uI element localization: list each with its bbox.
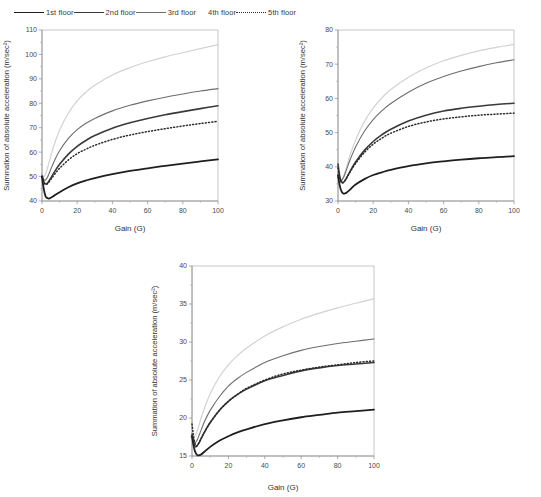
y-tick-label: 60 <box>325 95 333 102</box>
legend-swatch-3rd-floor <box>136 12 166 13</box>
y-tick-label: 35 <box>179 300 187 307</box>
legend-label-4th-floor: 4th floor <box>208 8 236 17</box>
legend-item-5th-floor: 5th floor <box>236 8 296 17</box>
x-tick-label: 60 <box>144 207 152 214</box>
y-tick-label: 50 <box>325 129 333 136</box>
y-tick-label: 60 <box>29 149 37 156</box>
y-tick-label: 100 <box>25 51 37 58</box>
x-tick-label: 40 <box>261 462 269 469</box>
x-tick-label: 100 <box>508 207 520 214</box>
y-axis-title: Summation of absolute acceleration (m/se… <box>150 285 159 436</box>
y-tick-label: 15 <box>179 452 187 459</box>
chart-panel-3: 152025303540020406080100Gain (G)Summatio… <box>148 252 398 492</box>
plot-frame <box>42 30 218 201</box>
x-tick-label: 40 <box>405 207 413 214</box>
x-tick-label: 0 <box>336 207 340 214</box>
series-line-2nd-floor <box>192 363 374 447</box>
x-tick-label: 100 <box>368 462 380 469</box>
x-tick-label: 80 <box>475 207 483 214</box>
chart-svg: 152025303540020406080100Gain (G)Summatio… <box>148 252 398 492</box>
legend-swatch-5th-floor <box>236 12 266 13</box>
legend-item-4th-floor: 4th floor <box>208 8 236 17</box>
series-line-5th-floor <box>192 361 374 446</box>
series-line-5th-floor <box>338 113 514 183</box>
y-tick-label: 20 <box>179 414 187 421</box>
legend-label-3rd-floor: 3rd floor <box>168 8 196 17</box>
legend-swatch-1st-floor <box>14 12 44 13</box>
legend-swatch-2nd-floor <box>74 12 104 13</box>
series-line-4th-floor <box>192 299 374 437</box>
chart-panel-2: 304050607080020406080100Gain (G)Summatio… <box>296 18 536 233</box>
series-line-1st-floor <box>192 410 374 456</box>
x-tick-label: 20 <box>73 207 81 214</box>
y-axis-title: Summation of absolute acceleration (m/se… <box>298 40 307 191</box>
x-tick-label: 60 <box>297 462 305 469</box>
x-tick-label: 20 <box>369 207 377 214</box>
y-tick-label: 80 <box>325 26 333 33</box>
plot-frame <box>192 266 374 456</box>
y-tick-label: 70 <box>29 124 37 131</box>
series-line-1st-floor <box>42 159 218 198</box>
legend-label-1st-floor: 1st floor <box>46 8 74 17</box>
y-tick-label: 30 <box>325 197 333 204</box>
y-tick-label: 110 <box>26 26 37 33</box>
x-tick-label: 80 <box>179 207 187 214</box>
chart-panel-1: 405060708090100110020406080100Gain (G)Su… <box>0 18 240 233</box>
x-tick-label: 80 <box>334 462 342 469</box>
series-line-5th-floor <box>42 121 218 184</box>
chart-svg: 405060708090100110020406080100Gain (G)Su… <box>0 18 240 233</box>
y-tick-label: 80 <box>29 100 37 107</box>
y-axis-title: Summation of absolute acceleration (m/se… <box>2 40 11 191</box>
x-tick-label: 0 <box>190 462 194 469</box>
y-tick-label: 40 <box>179 262 187 269</box>
legend-label-5th-floor: 5th floor <box>268 8 296 17</box>
y-tick-label: 30 <box>179 338 187 345</box>
series-line-1st-floor <box>338 156 514 193</box>
series-line-3rd-floor <box>338 60 514 181</box>
series-line-3rd-floor <box>192 339 374 442</box>
y-tick-label: 70 <box>325 61 333 68</box>
legend-item-3rd-floor: 3rd floor <box>136 8 196 17</box>
x-axis-title: Gain (G) <box>115 224 146 233</box>
x-tick-label: 0 <box>40 207 44 214</box>
y-tick-label: 50 <box>29 173 37 180</box>
series-line-2nd-floor <box>42 106 218 184</box>
x-tick-label: 20 <box>225 462 233 469</box>
y-tick-label: 40 <box>29 197 37 204</box>
y-tick-label: 90 <box>29 75 37 82</box>
y-tick-label: 25 <box>179 376 187 383</box>
y-tick-label: 40 <box>325 163 333 170</box>
x-tick-label: 60 <box>440 207 448 214</box>
legend-item-1st-floor: 1st floor <box>14 8 74 17</box>
x-tick-label: 40 <box>109 207 117 214</box>
legend-item-2nd-floor: 2nd floor <box>74 8 136 17</box>
x-tick-label: 100 <box>212 207 224 214</box>
x-axis-title: Gain (G) <box>268 483 299 492</box>
legend-label-2nd-floor: 2nd floor <box>106 8 136 17</box>
chart-svg: 304050607080020406080100Gain (G)Summatio… <box>296 18 536 233</box>
x-axis-title: Gain (G) <box>411 224 442 233</box>
